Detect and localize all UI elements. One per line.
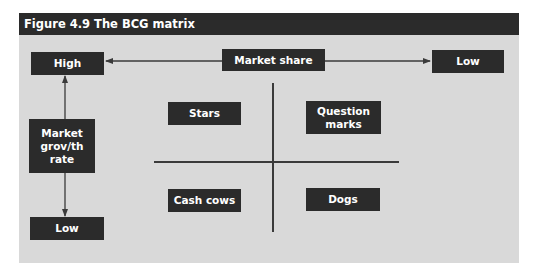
market-share-label: Market share: [234, 54, 312, 67]
market-growth-rate-box: Market grov/th rate: [29, 119, 95, 173]
stars-label: Stars: [189, 107, 220, 120]
question-marks-line-2: marks: [325, 118, 361, 131]
quadrant-vertical-divider: [272, 83, 274, 232]
quadrant-dogs: Dogs: [306, 188, 380, 211]
dogs-label: Dogs: [328, 193, 358, 206]
quadrant-horizontal-divider: [154, 161, 399, 163]
share-low-label: Low: [456, 55, 480, 68]
growth-low-box: Low: [30, 217, 104, 240]
quadrant-question-marks: Question marks: [306, 101, 381, 134]
market-share-box: Market share: [222, 49, 325, 71]
share-low-box: Low: [432, 50, 504, 73]
share-high-box: High: [31, 52, 104, 75]
growth-low-label: Low: [55, 222, 79, 235]
share-high-label: High: [54, 57, 81, 70]
growth-label-line-1: Market: [41, 127, 83, 140]
question-marks-line-1: Question: [317, 105, 370, 118]
cash-cows-label: Cash cows: [174, 194, 236, 207]
growth-label-line-3: rate: [50, 153, 74, 166]
growth-label-line-2: grov/th: [40, 140, 83, 153]
quadrant-cash-cows: Cash cows: [168, 189, 241, 212]
quadrant-stars: Stars: [168, 102, 241, 125]
